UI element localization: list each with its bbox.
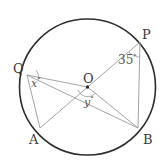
chord-p-b	[138, 42, 140, 128]
point-label-p: P	[142, 28, 151, 41]
angle-label-35: 35°	[118, 54, 137, 66]
angle-35-degree-symbol: °	[133, 53, 137, 61]
angle-35-value: 35	[118, 53, 133, 67]
angle-label-x: x°	[31, 77, 41, 89]
point-label-b: B	[143, 133, 153, 146]
circle-geometry-figure: P Q A B O x° y° 35°	[0, 0, 167, 166]
angle-y-degree-symbol: °	[90, 95, 94, 103]
angle-label-y: y°	[84, 96, 94, 108]
angle-x-degree-symbol: °	[37, 76, 41, 84]
point-label-o: O	[83, 72, 94, 85]
point-label-a: A	[29, 133, 38, 146]
point-label-q: Q	[13, 62, 24, 75]
